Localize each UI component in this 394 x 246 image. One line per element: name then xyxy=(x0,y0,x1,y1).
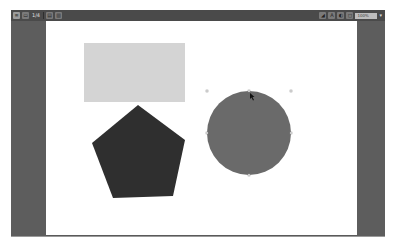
toolbar-divider xyxy=(43,12,44,19)
handle-top[interactable] xyxy=(248,90,250,92)
handle-bottom[interactable] xyxy=(248,174,250,176)
left-margin xyxy=(11,21,46,236)
toolbar-left: ≡ ▭ 1/4 ▤ ▥ xyxy=(11,12,62,19)
handle-left[interactable] xyxy=(206,132,208,134)
menu-icon[interactable]: ≡ xyxy=(13,12,20,19)
text-tool-icon[interactable]: A xyxy=(328,12,335,19)
chevron-down-icon[interactable]: ▾ xyxy=(379,12,382,19)
light-rectangle[interactable] xyxy=(84,43,185,102)
shapes-layer xyxy=(46,21,357,235)
handle-right[interactable] xyxy=(290,132,292,134)
color-icon[interactable]: ◐ xyxy=(337,12,344,19)
toolbar: ≡ ▭ 1/4 ▤ ▥ ◢ A ◐ ◻ 100% ▾ xyxy=(11,10,385,21)
dark-pentagon[interactable] xyxy=(92,105,185,198)
layout-icon[interactable]: ▥ xyxy=(55,12,62,19)
handle-top-left[interactable] xyxy=(206,90,208,92)
sidebar-icon[interactable]: ▭ xyxy=(22,12,29,19)
frame-icon[interactable]: ◻ xyxy=(346,12,353,19)
page-indicator: 1/4 xyxy=(31,12,41,19)
app-window: ≡ ▭ 1/4 ▤ ▥ ◢ A ◐ ◻ 100% ▾ xyxy=(11,10,385,237)
grid-view-icon[interactable]: ▤ xyxy=(46,12,53,19)
toolbar-right: ◢ A ◐ ◻ 100% ▾ xyxy=(319,10,382,21)
gray-circle[interactable] xyxy=(207,91,291,175)
zoom-field[interactable]: 100% xyxy=(355,13,377,19)
slide-canvas[interactable] xyxy=(46,21,357,235)
handle-top-right[interactable] xyxy=(290,90,292,92)
shape-tool-icon[interactable]: ◢ xyxy=(319,12,326,19)
right-margin xyxy=(357,21,385,236)
